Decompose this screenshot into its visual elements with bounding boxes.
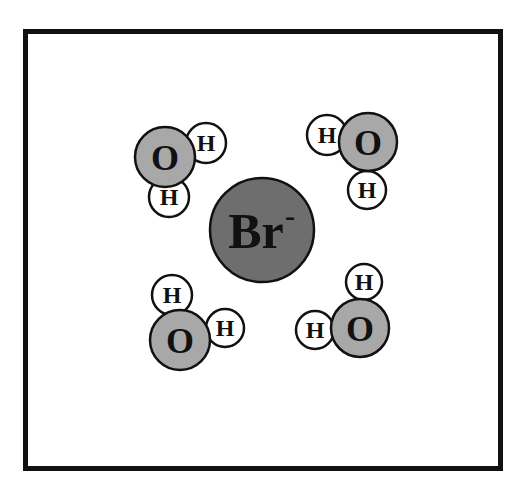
- water-molecule-top-right: HHO: [307, 113, 397, 209]
- oxygen-atom-label: O: [354, 123, 382, 163]
- oxygen-atom-label: O: [166, 321, 194, 361]
- water-molecule-top-left: HHO: [135, 123, 226, 217]
- oxygen-atom: O: [339, 113, 397, 171]
- hydrogen-atom: H: [348, 171, 386, 209]
- oxygen-atom-label: O: [151, 138, 179, 178]
- hydrogen-atom: H: [346, 264, 382, 300]
- water-molecule-bottom-right: HHO: [296, 264, 389, 357]
- hydrogen-atom: H: [206, 309, 244, 347]
- hydration-diagram: HHOHHOHHOHHOBr-: [0, 0, 516, 487]
- water-molecule-bottom-left: HHO: [150, 275, 244, 370]
- oxygen-atom: O: [150, 310, 210, 370]
- hydrogen-atom-label: H: [355, 269, 374, 295]
- oxygen-atom: O: [331, 299, 389, 357]
- hydrogen-atom-label: H: [216, 315, 235, 341]
- ion-label: Br: [228, 203, 284, 259]
- hydrogen-atom-label: H: [318, 122, 337, 148]
- hydrogen-atom-label: H: [358, 177, 377, 203]
- ion-charge: -: [285, 199, 295, 232]
- hydrogen-atom-label: H: [163, 282, 182, 308]
- oxygen-atom-label: O: [346, 309, 374, 349]
- bromide-ion: Br-: [210, 178, 314, 282]
- hydrogen-atom-label: H: [197, 130, 216, 156]
- hydrogen-atom-label: H: [160, 184, 179, 210]
- hydrogen-atom: H: [296, 311, 334, 349]
- hydrogen-atom: H: [152, 275, 192, 315]
- hydrogen-atom-label: H: [306, 317, 325, 343]
- oxygen-atom: O: [135, 127, 195, 187]
